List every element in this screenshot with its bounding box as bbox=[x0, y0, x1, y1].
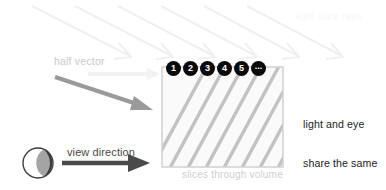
half-vector-label: half vector bbox=[54, 55, 105, 68]
slice-badge-2: 2 bbox=[183, 61, 198, 76]
view-direction-label: view direction bbox=[67, 146, 135, 159]
annotation-line-1: light and eye bbox=[303, 118, 377, 131]
slice-badge-ellipsis: ... bbox=[251, 61, 266, 76]
slice-badge-3: 3 bbox=[200, 61, 215, 76]
slices-through-volume-label: slices through volume bbox=[182, 169, 283, 181]
slice-badge-1: 1 bbox=[166, 61, 181, 76]
light-ray-arrow-1 bbox=[32, 6, 131, 59]
half-vector-arrow bbox=[55, 77, 153, 110]
light-ray-arrow-3 bbox=[118, 6, 215, 59]
slice-badge-4: 4 bbox=[217, 61, 232, 76]
light-ray-arrow-horizontal bbox=[88, 68, 160, 80]
half-angle-slicing-diagram: half vector light slice rays slices thro… bbox=[0, 0, 386, 190]
slice-badge-5: 5 bbox=[234, 61, 249, 76]
light-ray-arrow-2 bbox=[75, 6, 173, 59]
annotation-text-block: light and eye share the same front-to-ba… bbox=[303, 92, 377, 190]
light-slice-rays-label: light slice rays bbox=[296, 11, 362, 23]
eye-icon bbox=[23, 148, 53, 178]
annotation-line-2: share the same bbox=[303, 157, 377, 170]
